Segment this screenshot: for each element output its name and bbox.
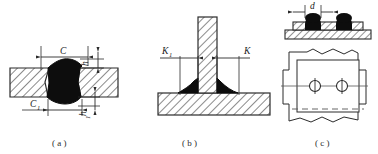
panel-a-plate-right (78, 68, 118, 97)
panel-c-label-d: d (310, 1, 315, 11)
panel-c-upper-plate (293, 22, 363, 30)
panel-a-plate-left (10, 68, 49, 97)
panel-a-weld-bead (47, 59, 82, 104)
panel-b-label-K1-sub: 1 (169, 51, 172, 58)
panel-a-label-C1-sub: 1 (37, 104, 40, 111)
panel-b-vertical-plate (198, 17, 217, 93)
panel-a-label-C1: C (30, 99, 37, 109)
welded-joint-figure: C h C 1 h 1 ( a ) (0, 0, 378, 154)
panel-b-base-plate (158, 93, 270, 115)
panel-a-label-h1: h (78, 111, 88, 116)
panel-a-label-C: C (60, 46, 67, 56)
panel-c-lower-plate (285, 30, 371, 39)
panel-c-caption: ( c ) (315, 138, 330, 148)
panel-a-label-h1-sub: 1 (84, 116, 91, 119)
panel-b-label-K: K (243, 46, 251, 56)
panel-c-nugget-left (305, 13, 321, 30)
panel-c-nugget-right (336, 13, 352, 30)
panel-a-caption: ( a ) (52, 138, 67, 148)
panel-b-label-K1: K (161, 46, 169, 56)
panel-a-label-h: h (80, 61, 90, 66)
panel-b-caption: ( b ) (182, 138, 197, 148)
